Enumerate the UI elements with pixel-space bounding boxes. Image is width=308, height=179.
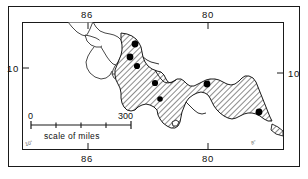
- figure-container: 86 80 86 80 10 10 0 300 scale of miles 1…: [0, 0, 308, 179]
- locality-dot: [127, 54, 134, 61]
- coast-detail-azuero: [186, 102, 206, 114]
- longitude-label-bottom-left: 86: [81, 154, 93, 164]
- locality-dot: [134, 63, 140, 69]
- land-fragment-east: [271, 124, 283, 136]
- scale-max-label: 300: [118, 111, 133, 121]
- map-graphic: [0, 0, 308, 179]
- locality-dot: [256, 109, 263, 116]
- latitude-label-right: 10: [288, 69, 300, 79]
- longitude-label-top-right: 80: [202, 10, 214, 20]
- locality-dot: [132, 41, 139, 48]
- longitude-label-top-left: 86: [81, 10, 93, 20]
- land-mass-shaded: [115, 33, 272, 128]
- scale-bar-graphic: [31, 121, 131, 129]
- locality-dot: [157, 96, 163, 102]
- scale-caption: scale of miles: [44, 131, 100, 141]
- locality-dot: [152, 80, 158, 86]
- coastline-northwest: [68, 22, 93, 36]
- longitude-label-bottom-right: 80: [202, 154, 214, 164]
- scale-min-label: 0: [28, 111, 33, 121]
- locality-dot: [204, 81, 211, 88]
- latitude-label-left: 10: [7, 64, 19, 74]
